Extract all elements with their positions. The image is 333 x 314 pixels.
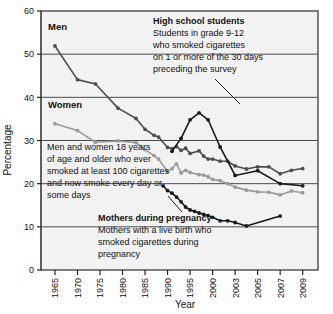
x-tick-label-2009: 2009: [298, 278, 308, 298]
x-tick-label-1965: 1965: [50, 278, 60, 298]
data-point: [175, 162, 179, 166]
x-tick-label-1995: 1995: [185, 278, 195, 298]
data-point: [267, 165, 271, 169]
data-point: [179, 136, 183, 140]
x-tick-label-2000: 2000: [208, 278, 218, 298]
data-point: [256, 169, 260, 173]
data-point: [244, 188, 248, 192]
data-point: [290, 168, 294, 172]
mothers-annotation-line-3: pregnancy: [98, 249, 141, 259]
data-point: [244, 224, 248, 228]
data-point: [134, 117, 138, 121]
highschool-annotation-line-3: on 1 or more of the 30 days: [153, 52, 264, 62]
data-point: [188, 171, 192, 175]
smoking-prevalence-chart: 0102030405060 19651970197519801985199019…: [0, 0, 333, 314]
chart-canvas: 0102030405060 19651970197519801985199019…: [0, 0, 333, 314]
data-point: [188, 208, 192, 212]
x-tick-label-2007: 2007: [276, 278, 286, 298]
data-point: [267, 190, 271, 194]
data-point: [76, 129, 80, 133]
data-point: [218, 179, 222, 183]
data-point: [290, 189, 294, 193]
data-point: [184, 205, 188, 209]
data-point: [157, 135, 161, 139]
data-point: [76, 78, 80, 82]
data-point: [244, 167, 248, 171]
data-point: [184, 168, 188, 172]
highschool-annotation-line-4: preceding the survey: [153, 64, 237, 74]
mothers-annotation-heading: Mothers during pregnancy: [98, 213, 212, 223]
data-point: [206, 157, 210, 161]
data-point: [226, 219, 230, 223]
y-tick-label-50: 50: [24, 49, 34, 59]
series-label-women: Women: [48, 99, 82, 110]
data-point: [184, 146, 188, 150]
y-axis-title: Percentage: [2, 124, 13, 176]
data-point: [152, 133, 156, 137]
data-point: [218, 145, 222, 149]
data-point: [202, 173, 206, 177]
data-point: [166, 146, 170, 150]
adults-annotation-line-5: some days: [47, 190, 91, 200]
data-point: [179, 200, 183, 204]
data-point: [143, 127, 147, 131]
data-point: [166, 189, 170, 193]
highschool-annotation-line-1: Students in grade 9-12: [153, 28, 244, 38]
data-point: [278, 193, 282, 197]
data-point: [233, 164, 237, 168]
data-point: [206, 118, 210, 122]
x-tick-label-1985: 1985: [140, 278, 150, 298]
data-point: [233, 221, 237, 225]
data-point: [157, 157, 161, 161]
data-point: [301, 184, 305, 188]
data-point: [218, 219, 222, 223]
data-point: [197, 111, 201, 115]
y-tick-label-10: 10: [24, 222, 34, 232]
data-point: [301, 191, 305, 195]
data-point: [179, 149, 183, 153]
data-point: [94, 82, 98, 86]
x-tick-label-1970: 1970: [73, 278, 83, 298]
x-tick-label-2005: 2005: [253, 278, 263, 298]
x-tick-label-2003: 2003: [231, 278, 241, 298]
data-point: [170, 149, 174, 153]
data-point: [53, 122, 57, 126]
adults-annotation-line-2: of age and older who ever: [47, 154, 151, 164]
data-point: [179, 171, 183, 175]
data-point: [188, 118, 192, 122]
data-point: [211, 177, 215, 181]
data-point: [170, 191, 174, 195]
data-point: [278, 182, 282, 186]
data-point: [233, 174, 237, 178]
data-point: [206, 175, 210, 179]
data-point: [233, 185, 237, 189]
x-axis: 1965197019751980198519901995200020032005…: [50, 270, 308, 298]
data-point: [197, 149, 201, 153]
mothers-annotation-line-1: Mothers with a live birth who: [98, 225, 212, 235]
x-tick-label-1980: 1980: [118, 278, 128, 298]
data-point: [278, 214, 282, 218]
y-tick-label-60: 60: [24, 6, 34, 16]
series-label-men: Men: [48, 21, 67, 32]
data-point: [188, 152, 192, 156]
data-point: [226, 182, 230, 186]
data-point: [197, 173, 201, 177]
data-point: [278, 172, 282, 176]
y-tick-label-30: 30: [24, 136, 34, 146]
data-point: [53, 44, 57, 48]
highschool-annotation-line-2: who smoked cigarettes: [152, 40, 246, 50]
data-point: [116, 106, 120, 110]
x-axis-title: Year: [175, 299, 196, 310]
data-point: [211, 157, 215, 161]
adults-annotation-line-1: Men and women 18 years: [47, 142, 151, 152]
data-point: [152, 154, 156, 158]
data-point: [175, 195, 179, 199]
data-point: [218, 159, 222, 163]
highschool-annotation-heading: High school students: [153, 16, 245, 26]
y-tick-label-40: 40: [24, 93, 34, 103]
data-point: [256, 165, 260, 169]
data-point: [170, 167, 174, 171]
mothers-annotation-line-2: smoked cigarettes during: [98, 237, 199, 247]
x-tick-label-1990: 1990: [163, 278, 173, 298]
data-point: [202, 154, 206, 158]
